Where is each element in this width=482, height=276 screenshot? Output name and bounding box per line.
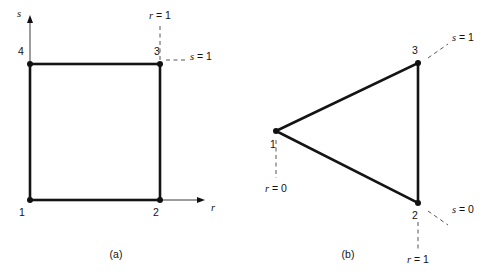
annotation-s-equals-one-a: s = 1	[190, 50, 212, 62]
panel-b-group: r = 0 s = 1 s = 0 r = 1 1 2 3 (b)	[265, 31, 474, 265]
node-dot-b-2	[415, 200, 421, 206]
panel-b-caption: (b)	[342, 248, 355, 260]
annotation-s1-rest-b: = 1	[456, 31, 474, 43]
node-label-a-3: 3	[154, 45, 160, 57]
s-equals-one-guide-b	[428, 44, 448, 58]
annotation-s0-rest-b: = 0	[456, 203, 474, 215]
r-axis-arrowhead-a	[197, 197, 205, 203]
node-dot-b-1	[273, 128, 279, 134]
annotation-s-rest-a: = 1	[194, 50, 212, 62]
panel-a-caption: (a)	[110, 248, 123, 260]
figure-svg: s r r = 1 s = 1 1 2	[0, 0, 482, 276]
node-label-b-2: 2	[412, 209, 418, 221]
annotation-r-equals-one-b: r = 1	[407, 253, 429, 265]
s-equals-zero-guide-b	[428, 211, 448, 225]
annotation-r-rest-a: = 1	[153, 9, 171, 21]
r-axis-label-a: r	[211, 202, 216, 213]
figure-container: s r r = 1 s = 1 1 2	[0, 0, 482, 276]
s-axis-label-a: s	[17, 8, 21, 19]
node-label-b-3: 3	[412, 44, 418, 56]
r-axis-a: r	[160, 197, 216, 213]
node-label-a-4: 4	[18, 45, 24, 57]
node-dot-a-3	[157, 61, 163, 67]
annotation-r-equals-zero-b: r = 0	[265, 182, 287, 194]
annotation-r-equals-one-a: r = 1	[149, 9, 171, 21]
annotation-r0-rest-b: = 0	[269, 182, 287, 194]
node-dot-a-2	[157, 197, 163, 203]
node-label-a-2: 2	[153, 206, 159, 218]
node-dot-b-3	[415, 60, 421, 66]
annotation-s-equals-one-b: s = 1	[452, 31, 474, 43]
annotation-s-equals-zero-b: s = 0	[452, 203, 474, 215]
s-axis-arrowhead-a	[27, 15, 33, 23]
node-label-a-1: 1	[19, 206, 25, 218]
node-dot-a-1	[27, 197, 33, 203]
square-element-outline	[30, 64, 160, 200]
node-label-b-1: 1	[270, 138, 276, 150]
annotation-r1-rest-b: = 1	[411, 253, 429, 265]
triangle-element-outline	[276, 63, 418, 203]
node-dot-a-4	[27, 61, 33, 67]
panel-a-group: s r r = 1 s = 1 1 2	[17, 8, 216, 260]
